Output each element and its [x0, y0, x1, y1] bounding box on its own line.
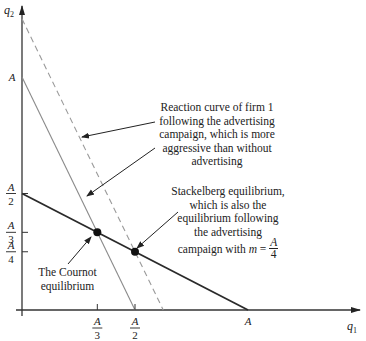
y-tick-label: A2 — [6, 181, 16, 207]
cournot-equilibrium-point — [93, 228, 101, 236]
x-axis-label: q1 — [347, 319, 357, 335]
stackelberg-equilibrium-point — [131, 248, 139, 256]
note-line: equilibrium — [30, 280, 105, 294]
tick-denominator: 3 — [95, 329, 101, 341]
tick-numerator: A — [131, 315, 139, 327]
tick-numerator: A — [7, 219, 15, 231]
tick-numerator: A — [8, 71, 16, 83]
stackelberg-annotation: Stackelberg equilibrium, which is also t… — [168, 185, 288, 260]
arrow-to-firm1-curve — [87, 148, 155, 196]
tick-numerator: A — [7, 239, 15, 251]
note-eq: = — [257, 243, 269, 257]
x-tick-label: A — [244, 315, 252, 327]
tick-denominator: 2 — [8, 195, 14, 207]
x-tick-label: A3 — [92, 315, 102, 341]
note-line: equilibrium following — [168, 212, 288, 226]
note-fraction: A 4 — [269, 237, 278, 260]
tick-numerator: A — [244, 315, 252, 327]
frac-den: 4 — [271, 249, 277, 260]
note-line: following the advertising — [152, 115, 282, 129]
y-axis-label: q2 — [4, 3, 14, 19]
x-tick-label: A2 — [130, 315, 140, 341]
note-line: which is also the — [168, 199, 288, 213]
note-line: advertising — [152, 155, 282, 169]
cournot-annotation: The Cournot equilibrium — [30, 266, 105, 293]
reaction-curve-annotation: Reaction curve of firm 1 following the a… — [152, 101, 282, 169]
note-line: Reaction curve of firm 1 — [152, 101, 282, 115]
tick-denominator: 4 — [8, 253, 14, 265]
y-tick-label: A — [8, 71, 16, 83]
note-line: The Cournot — [30, 266, 105, 280]
note-line: campaign, which is more — [152, 128, 282, 142]
arrow-to-dashed-curve — [82, 122, 155, 137]
note-var: m — [249, 243, 257, 257]
note-line: Stackelberg equilibrium, — [168, 185, 288, 199]
tick-denominator: 2 — [132, 329, 138, 341]
y-tick-label: A4 — [6, 239, 16, 265]
arrow-to-cournot — [68, 237, 91, 264]
note-line-last: campaign with m = A 4 — [168, 239, 288, 260]
note-line: aggressive than without — [152, 142, 282, 156]
note-text: campaign with — [178, 243, 249, 257]
tick-numerator: A — [93, 315, 101, 327]
tick-numerator: A — [7, 181, 15, 193]
